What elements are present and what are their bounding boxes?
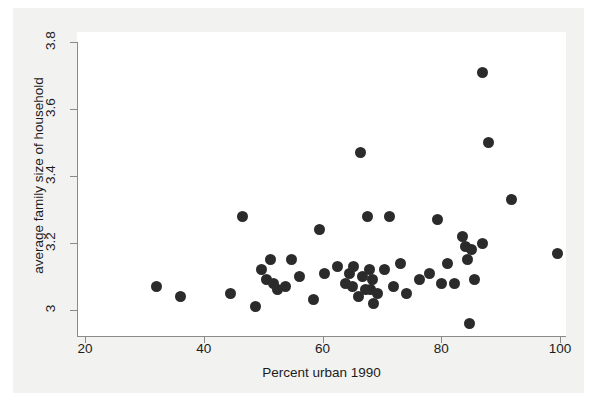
data-point — [469, 274, 480, 285]
data-point — [308, 294, 319, 305]
data-point — [362, 211, 373, 222]
data-point — [384, 211, 395, 222]
data-point — [442, 258, 453, 269]
data-point — [401, 288, 412, 299]
data-point — [348, 261, 359, 272]
x-tick-label: 20 — [63, 341, 107, 356]
data-point — [319, 268, 330, 279]
data-point — [432, 214, 443, 225]
data-point — [372, 288, 383, 299]
data-point — [462, 254, 473, 265]
data-point — [280, 281, 291, 292]
data-point — [367, 274, 378, 285]
x-tick-label: 60 — [301, 341, 345, 356]
x-axis-line — [77, 336, 566, 337]
data-point — [552, 248, 563, 259]
x-axis-title: Percent urban 1990 — [77, 365, 566, 380]
x-tick-label: 40 — [182, 341, 226, 356]
data-point — [314, 224, 325, 235]
y-axis-title: average family size of household — [31, 56, 46, 296]
data-point — [225, 288, 236, 299]
data-point — [368, 298, 379, 309]
x-tick-label: 80 — [419, 341, 463, 356]
data-point — [483, 137, 494, 148]
data-point — [250, 301, 261, 312]
data-point — [395, 258, 406, 269]
data-point — [388, 281, 399, 292]
data-point — [477, 238, 488, 249]
data-point — [175, 291, 186, 302]
data-point — [506, 194, 517, 205]
y-tick — [70, 310, 77, 311]
data-point — [332, 261, 343, 272]
x-tick-label: 100 — [538, 341, 582, 356]
data-point — [436, 278, 447, 289]
data-point — [151, 281, 162, 292]
data-point — [477, 67, 488, 78]
plot-area: 33.23.43.63.8 20406080100 Percent urban … — [0, 0, 597, 405]
data-point — [286, 254, 297, 265]
data-point — [265, 254, 276, 265]
y-tick-label: 3.8 — [43, 25, 58, 57]
data-point — [464, 318, 475, 329]
data-point — [355, 147, 366, 158]
data-point — [294, 271, 305, 282]
data-point — [379, 264, 390, 275]
scatter-plot-figure: 33.23.43.63.8 20406080100 Percent urban … — [0, 0, 597, 405]
y-axis-line — [77, 42, 78, 337]
y-tick — [70, 109, 77, 110]
data-point — [424, 268, 435, 279]
y-tick — [70, 243, 77, 244]
data-point — [237, 211, 248, 222]
y-tick-label: 3 — [43, 293, 58, 325]
data-point — [466, 244, 477, 255]
y-tick — [70, 42, 77, 43]
y-tick — [70, 176, 77, 177]
data-point — [449, 278, 460, 289]
